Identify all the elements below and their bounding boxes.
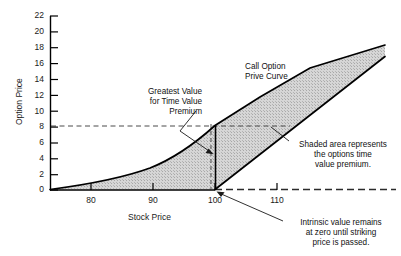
annotation-line: the options time [289,150,397,160]
call-option-curve-annotation: Call Option Prive Curve [245,62,325,82]
y-tick-label: 16 [22,59,44,68]
greatest-value-annotation: Greatest Value for Time Value Premium [96,87,202,117]
y-tick-label: 0 [22,185,44,194]
y-tick-label: 12 [22,91,44,100]
y-tick-label: 18 [22,43,44,52]
annotation-line: Call Option [245,62,325,72]
x-tick-label: 90 [138,196,168,205]
option-price-chart: 22 20 18 16 14 12 10 8 6 4 2 0 80 90 100… [0,0,401,256]
annotation-line: for Time Value [96,97,202,107]
y-tick-label: 8 [22,122,44,131]
annotation-line: Intrinsic value remains [285,218,397,228]
shaded-area-annotation: Shaded area represents the options time … [289,140,397,170]
annotation-line: Prive Curve [245,72,325,82]
x-tick-label: 80 [76,196,106,205]
annotation-line: value premium. [289,160,397,170]
annotation-line: price is passed. [285,238,397,248]
y-tick-label: 22 [22,11,44,20]
y-tick-label: 10 [22,107,44,116]
annotation-line: at zero until striking [285,228,397,238]
x-axis-title: Stock Price [128,212,171,222]
y-tick-label: 14 [22,75,44,84]
y-tick-label: 2 [22,170,44,179]
annotation-line: Shaded area represents [289,140,397,150]
x-tick-label: 110 [262,196,292,205]
annotation-line: Greatest Value [96,87,202,97]
annotation-line: Premium [96,107,202,117]
intrinsic-value-annotation: Intrinsic value remains at zero until st… [285,218,397,248]
y-tick-label: 20 [22,27,44,36]
y-tick-label: 6 [22,138,44,147]
y-tick-label: 4 [22,154,44,163]
y-axis-title: Option Price [14,78,24,125]
x-tick-label: 100 [200,196,230,205]
